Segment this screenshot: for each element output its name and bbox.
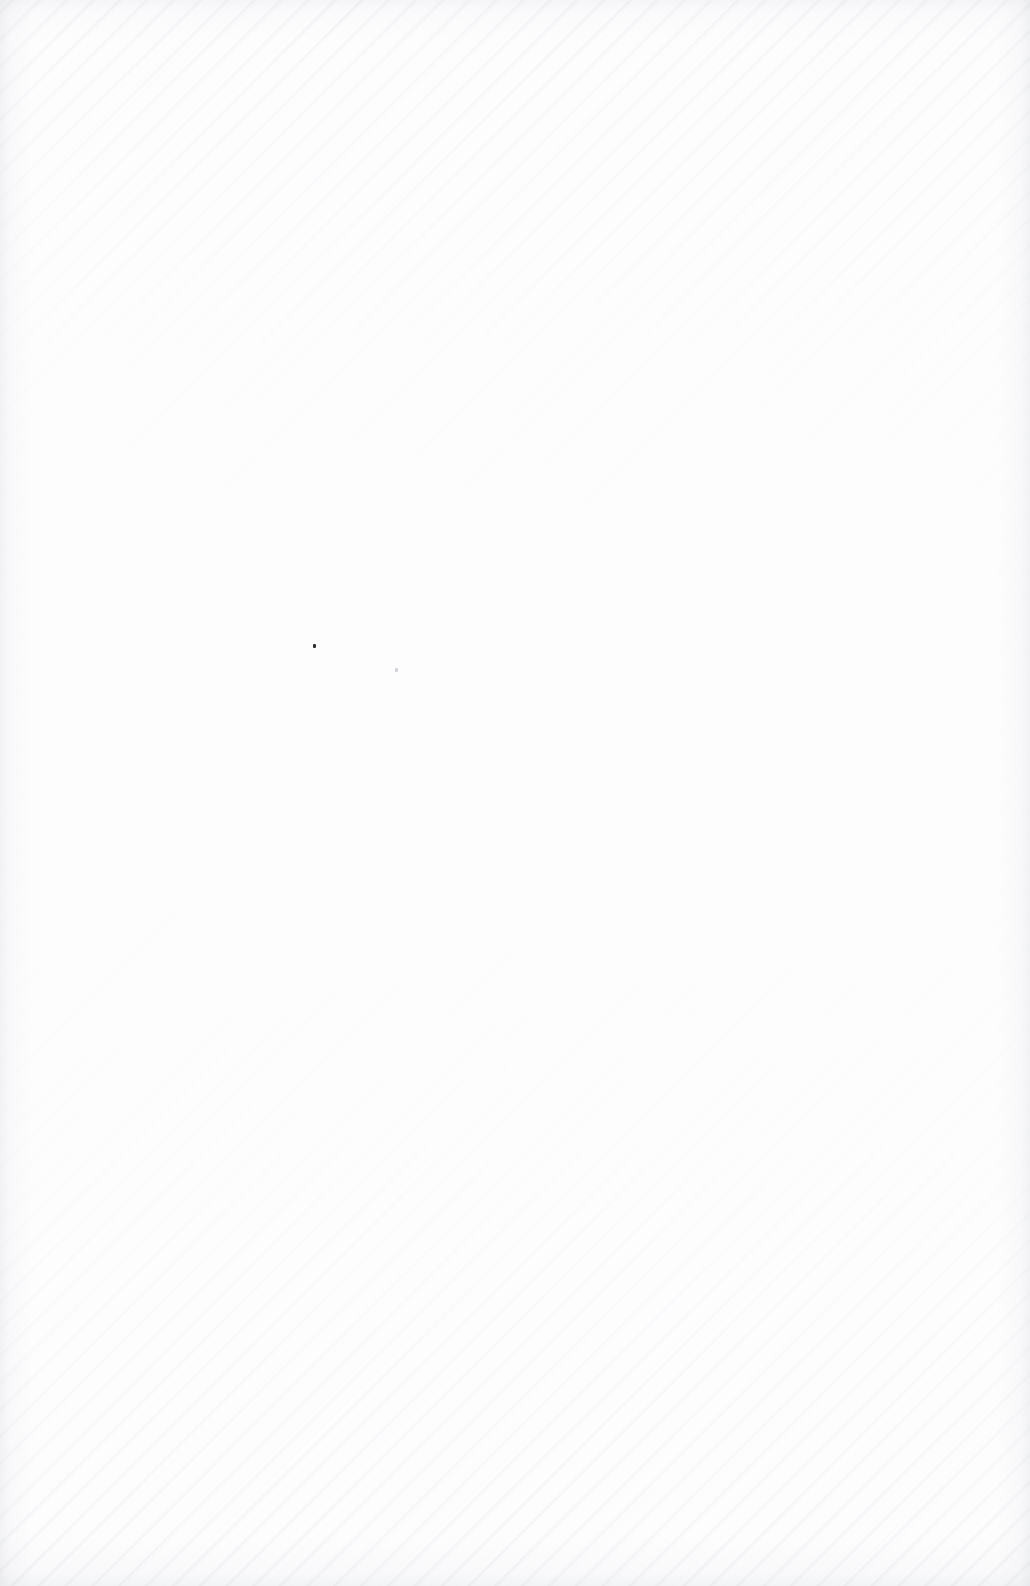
- dust-speck-primary: [313, 644, 316, 648]
- paper-grain-texture: [0, 0, 1030, 1586]
- paper-grain-fine-texture: [0, 0, 1030, 1586]
- edge-vignette: [0, 0, 1030, 1586]
- grain-falloff-overlay: [0, 0, 1030, 1586]
- dust-speck-secondary: [395, 668, 398, 672]
- scanned-page: [0, 0, 1030, 1586]
